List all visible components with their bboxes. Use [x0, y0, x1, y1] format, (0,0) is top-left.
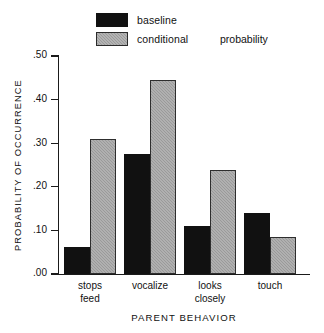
- category-label-line: touch: [232, 280, 308, 293]
- category-label-3: touch: [232, 280, 308, 293]
- bar-conditional-3: [270, 237, 296, 274]
- bar-baseline-3: [244, 213, 270, 274]
- category-label-line: closely: [172, 293, 248, 306]
- bar-conditional-2: [210, 170, 236, 274]
- bar-baseline-1: [124, 154, 150, 274]
- bar-baseline-2: [184, 226, 210, 274]
- bar-baseline-0: [64, 247, 90, 274]
- bar-chart-figure: baseline conditional probability .00.10.…: [0, 0, 324, 333]
- category-label-line: feed: [52, 293, 128, 306]
- bar-conditional-1: [150, 80, 176, 274]
- bar-conditional-0: [90, 139, 116, 274]
